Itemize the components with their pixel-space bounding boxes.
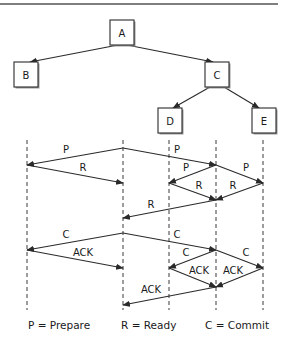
tree-edge-c-e xyxy=(224,87,259,108)
message-prepare-e-to-c: R xyxy=(216,180,263,200)
message-arrow xyxy=(216,183,263,200)
message-label: R xyxy=(148,199,155,210)
message-arrow xyxy=(27,148,123,165)
message-arrow xyxy=(169,165,216,183)
message-label: R xyxy=(196,180,203,191)
legend: P = PrepareR = ReadyC = Commit xyxy=(28,319,269,331)
legend-item: P = Prepare xyxy=(28,319,90,331)
node-e: E xyxy=(252,108,278,135)
message-label: R xyxy=(230,180,237,191)
node-b: B xyxy=(14,62,40,89)
legend-item: R = Ready xyxy=(121,319,176,331)
message-commit-d-to-c: ACK xyxy=(169,265,216,287)
message-arrow xyxy=(169,183,216,200)
node-label: C xyxy=(214,70,221,81)
message-arrow xyxy=(123,200,216,218)
node-a: A xyxy=(110,20,136,47)
node-label: A xyxy=(119,28,126,39)
tree-nodes: ABCDE xyxy=(14,20,278,135)
message-prepare-d-to-c: R xyxy=(169,180,216,200)
message-prepare-b-to-a: R xyxy=(27,162,123,183)
node-label: B xyxy=(23,70,30,81)
message-label: C xyxy=(174,229,181,240)
tree-edge-a-c xyxy=(127,45,213,62)
message-label: P xyxy=(63,144,69,155)
messages: PRPPPRRRCACKCCCACKACKACK xyxy=(27,144,263,305)
message-commit-b-to-a: ACK xyxy=(27,247,123,268)
message-arrow xyxy=(27,165,123,183)
node-c: C xyxy=(205,62,231,89)
legend-item: C = Commit xyxy=(205,319,269,331)
message-label: C xyxy=(183,247,190,258)
message-label: C xyxy=(243,247,250,258)
message-label: ACK xyxy=(141,284,162,295)
node-label: D xyxy=(166,116,174,127)
message-label: ACK xyxy=(189,265,210,276)
tree-edge-a-b xyxy=(30,45,118,62)
message-prepare-c-to-e: P xyxy=(216,162,263,183)
message-label: P xyxy=(183,162,189,173)
two-phase-commit-diagram: ABCDE PRPPPRRRCACKCCCACKACKACK P = Prepa… xyxy=(0,0,288,346)
message-prepare-a-to-b: P xyxy=(27,144,123,165)
tree-edge-c-d xyxy=(173,87,210,108)
message-arrow xyxy=(216,165,263,183)
message-prepare-c-to-d: P xyxy=(169,162,216,183)
message-prepare-c-to-a: R xyxy=(123,199,216,218)
message-label: P xyxy=(174,144,180,155)
message-label: P xyxy=(243,162,249,173)
node-d: D xyxy=(158,108,184,135)
message-label: R xyxy=(80,162,87,173)
node-label: E xyxy=(261,116,267,127)
message-label: ACK xyxy=(73,247,94,258)
message-label: ACK xyxy=(223,265,244,276)
message-label: C xyxy=(63,229,70,240)
message-commit-e-to-c: ACK xyxy=(216,265,263,287)
